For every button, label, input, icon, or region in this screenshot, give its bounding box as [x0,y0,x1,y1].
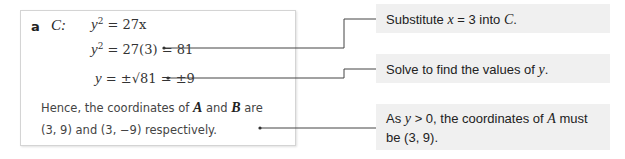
callout-solve: Solve to find the values of y. [376,54,610,83]
connector-dot-icon [162,46,165,49]
connector-dot-icon [166,76,169,79]
callout-substitute: Substitute x = 3 into C. [376,4,610,33]
connector-dot-icon [258,126,261,129]
callout-positive-y: As y > 0, the coordinates of A must be (… [376,104,610,150]
connector-1 [164,19,376,48]
connector-2 [168,69,376,78]
